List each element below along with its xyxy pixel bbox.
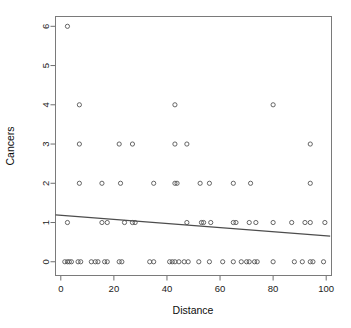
y-tick-label: 4 [40,102,51,107]
x-tick-label: 40 [162,283,173,294]
x-tick-label: 20 [109,283,120,294]
y-tick-label: 2 [40,181,51,186]
y-tick-label: 5 [40,63,51,68]
y-tick-label: 1 [40,220,51,225]
x-tick-label: 100 [318,283,334,294]
y-tick-label: 6 [40,24,51,29]
y-tick-label: 0 [40,259,51,264]
figure-background [0,0,351,328]
x-axis-title: Distance [173,304,214,316]
y-tick-label: 3 [40,141,51,146]
x-tick-label: 80 [268,283,279,294]
x-tick-label: 60 [215,283,226,294]
plot-canvas: 020406080100 0123456 Distance Cancers [0,0,351,328]
y-axis-title: Cancers [4,126,16,165]
scatter-plot-figure: 020406080100 0123456 Distance Cancers [0,0,351,328]
x-tick-label: 0 [58,283,63,294]
